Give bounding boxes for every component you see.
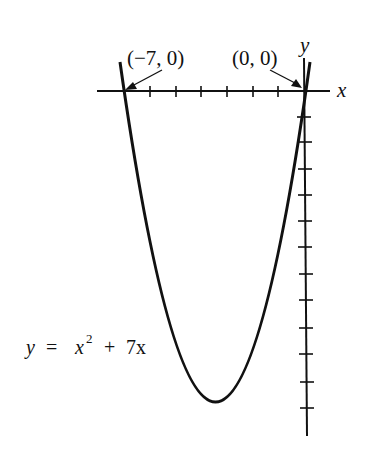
svg-text:+: +	[104, 336, 115, 358]
equation-label: y = x 2 + 7x	[24, 331, 146, 359]
point-label-origin: (0, 0)	[232, 46, 278, 70]
annotation-arrow-left	[125, 70, 162, 90]
annotation-arrow-origin	[270, 70, 302, 88]
svg-text:y: y	[24, 336, 35, 359]
y-axis-label: y	[298, 33, 310, 57]
svg-text:x: x	[74, 336, 84, 358]
parabola-graph: (−7, 0) (0, 0) y x y = x 2 + 7x	[0, 0, 367, 462]
svg-text:2: 2	[86, 331, 93, 346]
point-label-left: (−7, 0)	[127, 46, 184, 70]
parabola-curve	[120, 62, 310, 402]
svg-text:=: =	[46, 336, 57, 358]
x-axis-label: x	[336, 78, 347, 102]
svg-text:7x: 7x	[126, 336, 146, 358]
